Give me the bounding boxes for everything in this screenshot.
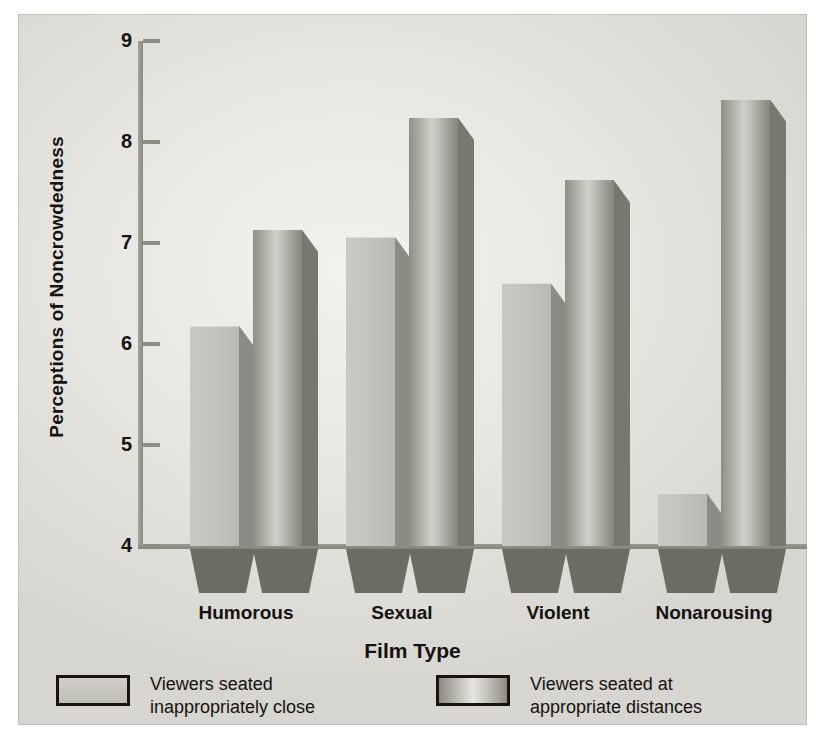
y-axis-title: Perceptions of Noncrowdedness	[46, 72, 68, 502]
y-axis-line	[138, 41, 143, 549]
bar-face	[190, 326, 239, 546]
y-tick-8	[143, 140, 160, 144]
category-label-violent: Violent	[474, 602, 642, 624]
bar-nonarousing-close	[658, 493, 707, 546]
bar-shadow	[346, 549, 411, 593]
y-tick-label-9: 9	[104, 30, 132, 50]
bar-shadow	[502, 549, 567, 593]
legend-label-line1: Viewers seated	[150, 673, 315, 696]
y-tick-4	[143, 544, 160, 548]
y-tick-label-4: 4	[104, 535, 132, 555]
y-tick-7	[143, 241, 160, 245]
bar-face	[658, 493, 707, 546]
bar-side-3d	[770, 100, 786, 546]
legend-swatch-close	[56, 675, 130, 706]
y-tick-9	[143, 39, 160, 43]
bar-nonarousing-appropriate	[721, 100, 770, 546]
bar-humorous-close	[190, 326, 239, 546]
bar-side-3d	[302, 230, 318, 546]
y-tick-5	[143, 443, 160, 447]
bar-face	[502, 283, 551, 546]
bar-face	[721, 100, 770, 546]
y-tick-6	[143, 342, 160, 346]
chart-figure: 987654 Perceptions of Noncrowdedness Hum…	[18, 14, 807, 725]
bar-shadow	[253, 549, 318, 593]
bar-shadow	[565, 549, 630, 593]
legend-label: Viewers seated atappropriate distances	[530, 673, 702, 718]
bar-shadow	[190, 549, 255, 593]
y-tick-label-8: 8	[104, 131, 132, 151]
legend-label-line2: inappropriately close	[150, 696, 315, 719]
y-tick-label-5: 5	[104, 434, 132, 454]
bar-humorous-appropriate	[253, 230, 302, 546]
bar-face	[253, 230, 302, 546]
bar-side-3d	[458, 118, 474, 546]
bar-shadow	[409, 549, 474, 593]
legend-item-close[interactable]: Viewers seatedinappropriately close	[56, 673, 315, 718]
bar-sexual-close	[346, 237, 395, 546]
bar-face	[565, 180, 614, 546]
category-label-nonarousing: Nonarousing	[630, 602, 798, 624]
category-label-sexual: Sexual	[318, 602, 486, 624]
bar-shadow	[721, 549, 786, 593]
bar-face	[409, 118, 458, 546]
legend-label: Viewers seatedinappropriately close	[150, 673, 315, 718]
bar-face	[346, 237, 395, 546]
legend-swatch-appropriate	[436, 675, 510, 706]
chart-legend: Viewers seatedinappropriately closeViewe…	[18, 669, 807, 725]
legend-label-line2: appropriate distances	[530, 696, 702, 719]
bar-violent-appropriate	[565, 180, 614, 546]
bar-shadow	[658, 549, 723, 593]
bar-sexual-appropriate	[409, 118, 458, 546]
legend-item-appropriate[interactable]: Viewers seated atappropriate distances	[436, 673, 702, 718]
plot-area: 987654 Perceptions of Noncrowdedness Hum…	[18, 14, 807, 725]
y-tick-label-6: 6	[104, 333, 132, 353]
bar-side-3d	[614, 180, 630, 546]
legend-label-line1: Viewers seated at	[530, 673, 702, 696]
y-tick-label-7: 7	[104, 232, 132, 252]
bar-violent-close	[502, 283, 551, 546]
category-label-humorous: Humorous	[162, 602, 330, 624]
x-axis-title: Film Type	[18, 639, 807, 663]
